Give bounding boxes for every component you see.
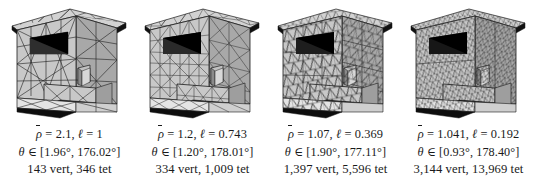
mesh-refinement-figure: ρ = 2.1, ℓ = 1 θ ∈ [1.96°, 176.02°] 143 … bbox=[0, 0, 538, 189]
mesh-render-4 bbox=[403, 0, 534, 124]
caption-line-counts-3: 1,397 vert, 5,596 tet bbox=[269, 161, 402, 179]
rho-value-2: = 1.2, bbox=[167, 127, 196, 141]
mesh-caption-3: ρ = 1.07, ℓ = 0.369 θ ∈ [1.90°, 177.11°]… bbox=[269, 125, 402, 179]
mesh-geometry-1 bbox=[12, 9, 126, 118]
mesh-render-2 bbox=[137, 0, 268, 124]
theta-symbol: θ bbox=[418, 145, 424, 159]
caption-line-rho-ell-2: ρ = 1.2, ℓ = 0.743 bbox=[136, 125, 269, 144]
rho-bar-symbol: ρ bbox=[36, 126, 42, 144]
mesh-geometry-3 bbox=[278, 9, 392, 118]
mesh-geometry-2 bbox=[145, 9, 259, 118]
rho-bar-symbol: ρ bbox=[288, 126, 294, 144]
mesh-svg-2 bbox=[137, 0, 268, 124]
ell-value-3: = 0.369 bbox=[344, 127, 383, 141]
ell-value-4: = 0.192 bbox=[481, 127, 520, 141]
rho-bar-symbol: ρ bbox=[418, 126, 424, 144]
mesh-render-3 bbox=[270, 0, 401, 124]
mesh-caption-1: ρ = 2.1, ℓ = 1 θ ∈ [1.96°, 176.02°] 143 … bbox=[3, 125, 136, 179]
caption-line-counts-2: 334 vert, 1,009 tet bbox=[136, 161, 269, 179]
ell-symbol: ℓ bbox=[78, 126, 83, 141]
mesh-render-1 bbox=[4, 0, 135, 124]
theta-symbol: θ bbox=[19, 145, 25, 159]
rho-value-4: = 1.041, bbox=[427, 127, 469, 141]
mesh-panel-1: ρ = 2.1, ℓ = 1 θ ∈ [1.96°, 176.02°] 143 … bbox=[4, 0, 135, 189]
caption-line-rho-ell-1: ρ = 2.1, ℓ = 1 bbox=[3, 125, 136, 144]
mesh-caption-2: ρ = 1.2, ℓ = 0.743 θ ∈ [1.20°, 178.01°] … bbox=[136, 125, 269, 179]
caption-line-rho-ell-3: ρ = 1.07, ℓ = 0.369 bbox=[269, 125, 402, 144]
ell-symbol: ℓ bbox=[200, 126, 205, 141]
ell-symbol: ℓ bbox=[336, 126, 341, 141]
mesh-panel-4: ρ = 1.041, ℓ = 0.192 θ ∈ [0.93°, 178.40°… bbox=[403, 0, 534, 189]
caption-line-theta-4: θ ∈ [0.93°, 178.40°] bbox=[402, 144, 535, 162]
ell-value-2: = 0.743 bbox=[208, 127, 247, 141]
rho-bar-symbol: ρ bbox=[158, 126, 164, 144]
theta-symbol: θ bbox=[285, 145, 291, 159]
ell-value-1: = 1 bbox=[86, 127, 103, 141]
mesh-svg-3 bbox=[270, 0, 401, 124]
mesh-caption-4: ρ = 1.041, ℓ = 0.192 θ ∈ [0.93°, 178.40°… bbox=[402, 125, 535, 179]
mesh-geometry-4 bbox=[411, 9, 525, 118]
mesh-panel-3: ρ = 1.07, ℓ = 0.369 θ ∈ [1.90°, 177.11°]… bbox=[270, 0, 401, 189]
caption-line-theta-2: θ ∈ [1.20°, 178.01°] bbox=[136, 144, 269, 162]
caption-line-counts-1: 143 vert, 346 tet bbox=[3, 161, 136, 179]
mesh-svg-4 bbox=[403, 0, 534, 124]
caption-line-theta-1: θ ∈ [1.96°, 176.02°] bbox=[3, 144, 136, 162]
mesh-panel-2: ρ = 1.2, ℓ = 0.743 θ ∈ [1.20°, 178.01°] … bbox=[137, 0, 268, 189]
rho-value-1: = 2.1, bbox=[45, 127, 74, 141]
rho-value-3: = 1.07, bbox=[297, 127, 333, 141]
caption-line-theta-3: θ ∈ [1.90°, 177.11°] bbox=[269, 144, 402, 162]
theta-symbol: θ bbox=[152, 145, 158, 159]
caption-line-rho-ell-4: ρ = 1.041, ℓ = 0.192 bbox=[402, 125, 535, 144]
caption-line-counts-4: 3,144 vert, 13,969 tet bbox=[402, 161, 535, 179]
ell-symbol: ℓ bbox=[472, 126, 477, 141]
mesh-svg-1 bbox=[4, 0, 135, 124]
